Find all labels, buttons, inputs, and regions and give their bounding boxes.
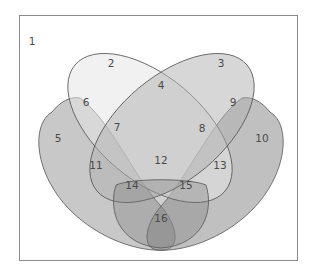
region-label: 1 bbox=[29, 35, 36, 47]
region-label: 12 bbox=[154, 154, 167, 166]
region-label: 11 bbox=[89, 159, 102, 171]
venn-diagram: 12345678910111213141516 bbox=[0, 0, 312, 276]
region-label: 7 bbox=[114, 121, 121, 133]
region-label: 2 bbox=[108, 57, 115, 69]
region-label: 13 bbox=[213, 159, 226, 171]
region-label: 15 bbox=[179, 179, 192, 191]
region-label: 14 bbox=[125, 179, 139, 191]
region-label: 8 bbox=[199, 122, 206, 134]
region-label: 16 bbox=[154, 212, 168, 224]
region-label: 3 bbox=[218, 57, 225, 69]
region-label: 9 bbox=[230, 96, 237, 108]
region-label: 4 bbox=[158, 79, 165, 91]
region-label: 5 bbox=[55, 132, 62, 144]
region-label: 6 bbox=[83, 96, 90, 108]
region-label: 10 bbox=[255, 132, 268, 144]
